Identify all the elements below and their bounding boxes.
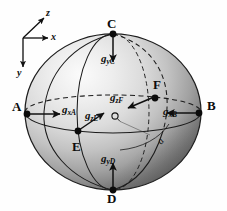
point-label-C: C — [107, 17, 116, 30]
vector-symbol-gxA: g — [62, 103, 68, 115]
point-B-dot — [196, 110, 203, 117]
vector-label-gyD: gyD — [101, 153, 115, 164]
vector-subscript-gyD: yD — [107, 157, 115, 166]
point-label-D: D — [107, 192, 116, 205]
point-A-dot — [24, 111, 31, 118]
axis-label-z: z — [46, 8, 50, 18]
axis-label-x: x — [51, 32, 56, 42]
vector-symbol-gyC: g — [101, 52, 107, 64]
axis-triad — [23, 18, 48, 67]
vector-symbol-gyD: g — [101, 152, 107, 164]
axis-label-y: y — [17, 68, 21, 78]
vector-subscript-gzE: zE — [91, 114, 99, 123]
point-label-E: E — [72, 140, 81, 153]
diagram-canvas — [0, 0, 227, 211]
vector-symbol-gzE: g — [85, 109, 91, 121]
vector-label-gxB: gxB — [163, 106, 177, 117]
vector-label-gxA: gxA — [62, 104, 76, 115]
vector-subscript-gzF: zF — [116, 96, 124, 105]
sphere-diagram: z x y A B C D E F gxA gxB gyC gyD gzE gz… — [0, 0, 227, 211]
vector-subscript-gxB: xB — [169, 110, 177, 119]
vector-symbol-gzF: g — [110, 91, 116, 103]
point-C-dot — [110, 31, 117, 38]
vector-subscript-gyC: yC — [107, 57, 115, 66]
vector-subscript-gxA: xA — [68, 108, 76, 117]
vector-label-gyC: gyC — [101, 53, 114, 64]
vector-symbol-gxB: g — [163, 105, 169, 117]
point-label-B: B — [207, 99, 216, 112]
point-label-A: A — [12, 100, 21, 113]
axis-z-line — [23, 18, 44, 38]
vector-label-gzF: gzF — [110, 92, 123, 103]
point-label-F: F — [153, 78, 161, 91]
vector-label-gzE: gzE — [85, 110, 98, 121]
